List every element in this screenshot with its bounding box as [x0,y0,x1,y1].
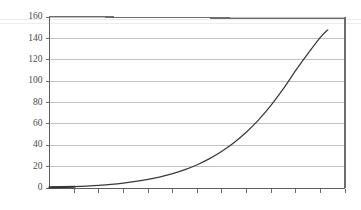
y-tick-label-20: 20 [33,161,43,171]
y-tick-label-100: 100 [28,75,43,85]
y-tick-label-160: 160 [28,11,43,21]
exponential-growth-line-chart: 020406080100120140160 [0,0,361,210]
chart-container: 020406080100120140160 [0,0,361,210]
y-tick-label-120: 120 [28,54,43,64]
y-tick-label-40: 40 [33,139,43,149]
y-tick-label-80: 80 [33,97,43,107]
chart-background [0,0,361,210]
y-tick-label-140: 140 [28,33,43,43]
y-tick-label-60: 60 [33,118,43,128]
y-tick-label-0: 0 [38,182,43,192]
